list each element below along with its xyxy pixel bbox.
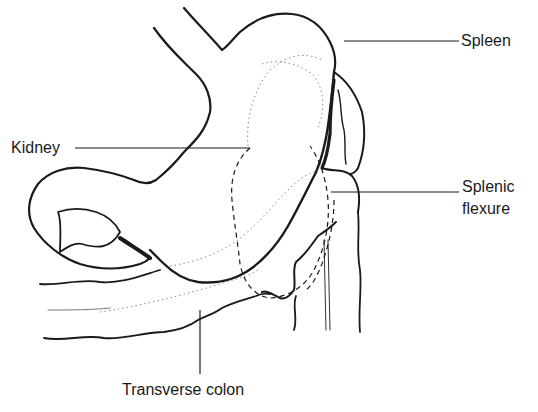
descending-colon-inner-line-2 [328, 240, 330, 330]
transverse-colon-inner-line [48, 308, 110, 310]
esophagus-right-wall [184, 8, 335, 72]
label-splenic-flexure: Splenic flexure [462, 176, 514, 220]
anatomy-illustration [0, 0, 538, 412]
dotted-stomach-posterior [248, 55, 322, 146]
transverse-colon-lower-edge [44, 294, 270, 340]
label-spleen: Spleen [461, 31, 511, 50]
splenic-flexure-outline [322, 168, 359, 212]
label-splenic-flexure-line2: flexure [462, 198, 514, 220]
spleen-outline [334, 72, 364, 174]
duodenum-opening [58, 209, 120, 252]
pylorus-shading [120, 238, 150, 258]
dotted-pancreas [170, 168, 322, 266]
transverse-colon-upper-edge [40, 270, 160, 284]
dotted-stomach-inner [262, 62, 323, 128]
descending-colon-right-wall [358, 212, 361, 332]
label-splenic-flexure-line1: Splenic [462, 176, 514, 198]
label-kidney: Kidney [11, 138, 60, 157]
spleen-inner-crease [338, 90, 346, 164]
kidney-dashed-outline [232, 146, 329, 298]
label-transverse-colon: Transverse colon [122, 380, 244, 399]
descending-colon-left-wall [294, 296, 296, 330]
